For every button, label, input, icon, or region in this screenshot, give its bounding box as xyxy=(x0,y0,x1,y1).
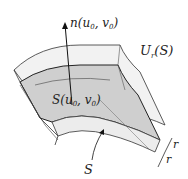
surface-label: S xyxy=(84,162,93,177)
normal-arrowhead-icon xyxy=(62,22,68,29)
thickness-arrow-top xyxy=(165,138,172,152)
tubular-neighborhood-diagram: n(u0, v0) Ur(S) S(u0, v0) S r r xyxy=(0,0,188,179)
thickness-label-upper: r xyxy=(173,138,179,151)
thickness-label-lower: r xyxy=(166,153,172,166)
thickness-arrow-bottom xyxy=(158,152,165,167)
normal-label: n(u0, v0) xyxy=(70,16,119,31)
surface-pointer-arrow xyxy=(92,131,103,160)
neighborhood-label: Ur(S) xyxy=(140,43,173,60)
